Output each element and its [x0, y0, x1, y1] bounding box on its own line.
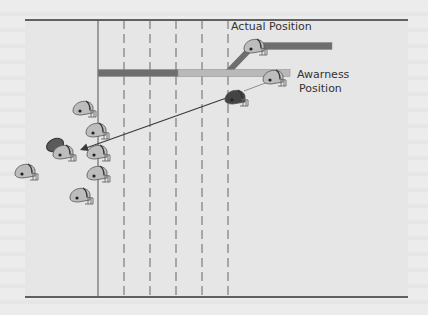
field-area: [25, 20, 408, 297]
play-field-canvas: [0, 0, 428, 315]
actual-position-label: Actual Position: [231, 20, 312, 33]
football-play-diagram: Actual Position Awarness Position: [0, 0, 428, 315]
awareness-label-line2: Position: [299, 82, 342, 95]
awareness-label-line1: Awarness: [297, 68, 349, 81]
route-upper: [258, 43, 332, 50]
route-dark: [98, 70, 178, 77]
